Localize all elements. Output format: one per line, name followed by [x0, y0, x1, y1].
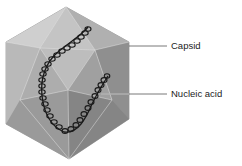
- capsid-label: Capsid: [171, 40, 201, 51]
- capsid-shape: [6, 7, 129, 159]
- virus-diagram: [0, 0, 242, 166]
- nucleic-acid-label: Nucleic acid: [171, 88, 222, 99]
